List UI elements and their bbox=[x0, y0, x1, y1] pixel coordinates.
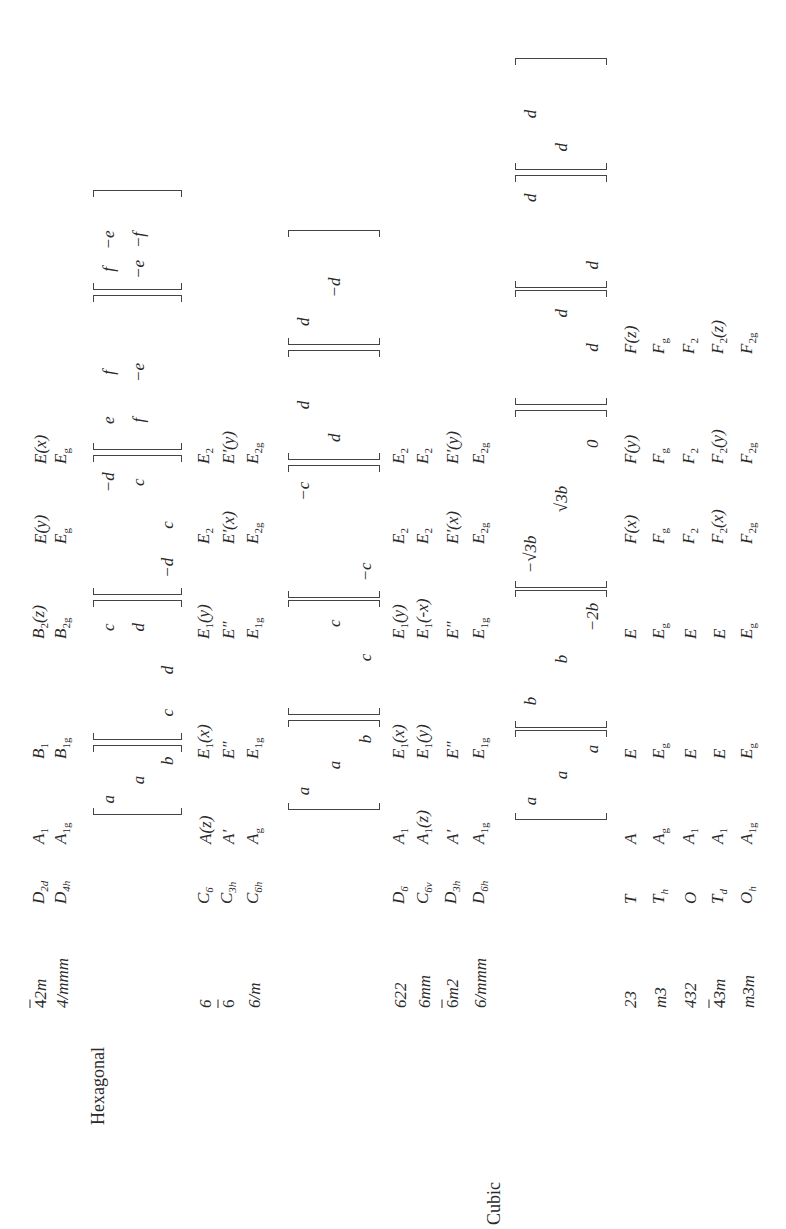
matrix-entry: d bbox=[522, 110, 539, 119]
symmetry-species: A1g bbox=[738, 823, 758, 844]
left-bracket bbox=[515, 398, 607, 405]
symmetry-species: Ag bbox=[244, 828, 264, 844]
symmetry-species: F2(z) bbox=[709, 320, 729, 354]
species-subscript: 1g bbox=[478, 618, 490, 629]
symmetry-species: Fg bbox=[650, 448, 670, 464]
matrix-entry: b bbox=[159, 756, 176, 765]
matrix-entry: d bbox=[295, 401, 312, 410]
right-bracket bbox=[515, 730, 607, 737]
tensor-matrix: −dc−dc bbox=[93, 455, 182, 595]
schoenflies-subscript: 3h bbox=[450, 881, 462, 892]
matrix-entry: 0 bbox=[583, 439, 600, 448]
symbol-rest: 3m bbox=[710, 979, 729, 1000]
symmetry-species: E2g bbox=[470, 443, 490, 464]
species-letter: A bbox=[679, 834, 698, 844]
matrix-entry: a bbox=[583, 745, 600, 754]
symmetry-species: E′(x) bbox=[220, 511, 237, 544]
species-axis: (z) bbox=[708, 320, 727, 338]
right-bracket bbox=[93, 745, 182, 752]
schoenflies-letter: D bbox=[469, 892, 488, 904]
left-bracket bbox=[515, 813, 607, 820]
species-letter: E′ bbox=[443, 530, 462, 544]
species-subscript: 1g bbox=[746, 823, 758, 834]
species-letter: E bbox=[413, 629, 432, 639]
species-subscript: 1g bbox=[252, 618, 264, 629]
left-bracket bbox=[288, 338, 380, 345]
species-letter: B bbox=[29, 629, 48, 639]
species-axis: (y) bbox=[31, 515, 50, 534]
species-axis: (y) bbox=[443, 431, 462, 450]
species-subscript: 2g bbox=[60, 618, 72, 629]
species-subscript: 2g bbox=[252, 523, 264, 534]
matrix-entry: a bbox=[326, 761, 343, 770]
left-bracket bbox=[288, 708, 380, 715]
symmetry-species: E′(y) bbox=[444, 431, 461, 464]
species-letter: E bbox=[469, 749, 488, 759]
left-bracket bbox=[515, 581, 607, 588]
species-letter: F bbox=[621, 344, 640, 354]
symmetry-species: E1g bbox=[470, 618, 490, 639]
symmetry-species: F2 bbox=[680, 448, 700, 464]
symmetry-species: Eg bbox=[52, 448, 72, 464]
international-symbol: 6mm bbox=[416, 975, 433, 1008]
symmetry-species: F2g bbox=[738, 523, 758, 544]
symmetry-species: E1(x) bbox=[390, 724, 410, 759]
species-letter: A bbox=[708, 834, 727, 844]
symmetry-species: A bbox=[622, 834, 639, 844]
schoenflies-letter: D bbox=[29, 892, 48, 904]
matrix-entry: √3b bbox=[553, 486, 570, 512]
species-axis: (y) bbox=[389, 604, 408, 623]
species-letter: F bbox=[679, 344, 698, 354]
symmetry-species: E2 bbox=[195, 448, 215, 464]
species-subscript: 1 bbox=[38, 828, 50, 834]
symmetry-species: F(z) bbox=[622, 326, 639, 354]
symmetry-species: E bbox=[711, 629, 728, 639]
species-letter: E bbox=[31, 534, 50, 544]
matrix-entry: d bbox=[553, 143, 570, 152]
matrix-entry: −e bbox=[99, 230, 116, 249]
species-letter: B bbox=[51, 629, 70, 639]
symmetry-species: E1(y) bbox=[390, 604, 410, 639]
species-letter: E bbox=[737, 629, 756, 639]
species-subscript: 2 bbox=[422, 448, 434, 454]
international-symbol: m3m bbox=[740, 975, 757, 1008]
species-letter: E bbox=[194, 534, 213, 544]
left-bracket bbox=[515, 163, 607, 170]
species-letter: A bbox=[29, 834, 48, 844]
schoenflies-subscript: 6v bbox=[422, 882, 434, 892]
symmetry-species: A1 bbox=[30, 828, 50, 844]
species-letter: F bbox=[737, 534, 756, 544]
species-letter: A bbox=[196, 834, 215, 844]
species-letter: E bbox=[243, 454, 262, 464]
matrix-entry: d bbox=[583, 261, 600, 270]
schoenflies-letter: D bbox=[389, 892, 408, 904]
symmetry-species: E bbox=[682, 749, 699, 759]
species-subscript: 1g bbox=[60, 823, 72, 834]
species-letter: F bbox=[708, 344, 727, 354]
species-subscript: 2g bbox=[746, 333, 758, 344]
schoenflies-symbol: D4h bbox=[52, 881, 72, 904]
species-letter: A′ bbox=[443, 830, 462, 844]
species-subscript: 1 bbox=[422, 623, 434, 629]
symmetry-species: F2 bbox=[680, 338, 700, 354]
species-subscript: g bbox=[60, 528, 72, 534]
schoenflies-symbol: D3h bbox=[442, 881, 462, 904]
symmetry-species: E2 bbox=[390, 528, 410, 544]
species-letter: A bbox=[51, 834, 70, 844]
international-symbol: 43m bbox=[711, 979, 728, 1008]
species-subscript: 1 bbox=[38, 743, 50, 749]
international-symbol: 622 bbox=[392, 983, 409, 1009]
schoenflies-subscript: h bbox=[746, 886, 758, 892]
symmetry-species: A1g bbox=[470, 823, 490, 844]
tensor-matrix: f−e−e−f bbox=[93, 190, 182, 290]
species-axis: (z) bbox=[196, 816, 215, 834]
species-letter: F bbox=[649, 344, 668, 354]
schoenflies-symbol: C6v bbox=[414, 882, 434, 904]
species-subscript: 2g bbox=[478, 443, 490, 454]
symmetry-species: E bbox=[682, 629, 699, 639]
species-subscript: g bbox=[658, 743, 670, 749]
symmetry-species: A′ bbox=[444, 830, 461, 844]
schoenflies-symbol: D2d bbox=[30, 881, 50, 904]
species-letter: A bbox=[649, 834, 668, 844]
schoenflies-symbol: D6h bbox=[470, 881, 490, 904]
